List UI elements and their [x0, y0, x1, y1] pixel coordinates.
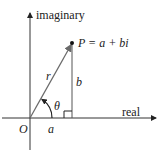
- radius-label: r: [46, 69, 51, 83]
- right-angle-marker: [64, 111, 72, 118]
- vertical-label: b: [76, 75, 82, 89]
- imaginary-axis-label: imaginary: [36, 8, 85, 22]
- real-axis-label: real: [122, 105, 141, 119]
- origin-label: O: [19, 122, 28, 136]
- diagram-svg: imaginary real P = a + bi r b θ O a: [0, 0, 166, 155]
- angle-arc: [42, 100, 52, 119]
- angle-label: θ: [54, 99, 60, 113]
- point-p: [70, 41, 74, 45]
- point-label: P = a + bi: [77, 36, 129, 50]
- horizontal-label: a: [48, 122, 54, 136]
- complex-plane-diagram: imaginary real P = a + bi r b θ O a: [0, 0, 166, 155]
